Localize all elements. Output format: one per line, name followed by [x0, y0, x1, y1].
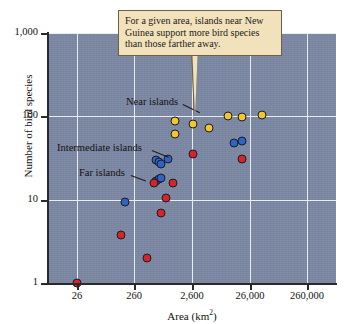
callout-tail	[192, 45, 198, 117]
data-point-near-6	[257, 110, 266, 119]
data-point-far-3	[149, 178, 158, 187]
data-point-far-1	[116, 230, 125, 239]
y-axis-line	[47, 32, 49, 284]
gridline-y-10	[48, 200, 336, 201]
data-point-near-1	[170, 129, 179, 138]
data-point-far-5	[161, 193, 170, 202]
data-point-near-4	[224, 111, 233, 120]
x-tick-label-26000: 26,000	[236, 291, 265, 302]
y-tick-mark-100	[41, 116, 48, 118]
y-tick-mark-1000	[41, 33, 48, 35]
y-tick-mark-1	[41, 283, 48, 285]
gridline-x-260000	[307, 33, 308, 283]
data-point-far-2	[143, 253, 152, 262]
x-axis-title: Area (km2)	[167, 308, 216, 322]
data-point-near-2	[189, 119, 198, 128]
gridline-x-26000	[250, 33, 251, 283]
data-point-inter-0	[121, 198, 130, 207]
x-axis-title-base: Area (km	[167, 310, 209, 322]
x-tick-label-26: 26	[72, 291, 83, 302]
series-label-intermediate-islands: Intermediate islands	[57, 143, 142, 154]
data-point-near-3	[205, 124, 214, 133]
data-point-near-5	[237, 113, 246, 122]
gridline-x-26	[77, 33, 78, 283]
y-tick-label-wrap: 1,000	[0, 27, 38, 39]
data-point-near-0	[170, 117, 179, 126]
callout-box: For a given area, islands near New Guine…	[118, 10, 282, 56]
data-point-far-8	[237, 154, 246, 163]
callout-text: For a given area, islands near New Guine…	[125, 15, 264, 49]
data-point-inter-9	[237, 137, 246, 146]
y-tick-mark-10	[41, 200, 48, 202]
series-label-far-islands: Far islands	[79, 168, 125, 179]
series-label-near-islands: Near islands	[126, 97, 178, 108]
data-point-far-7	[189, 150, 198, 159]
gridline-x-260	[134, 33, 135, 283]
chart-figure: 1101001,000 262602,60026,000260,000 Numb…	[0, 0, 344, 324]
x-axis-title-close: )	[213, 310, 217, 322]
data-point-far-6	[168, 178, 177, 187]
data-point-inter-7	[157, 174, 166, 183]
x-tick-label-2600: 2,600	[180, 291, 204, 302]
x-tick-label-260: 260	[126, 291, 142, 302]
y-tick-label-1: 1	[33, 277, 38, 288]
y-axis-title: Number of bird species	[22, 46, 34, 206]
data-point-far-4	[157, 208, 166, 217]
y-tick-label-1000: 1,000	[14, 27, 38, 38]
x-tick-label-260000: 260,000	[290, 291, 324, 302]
y-tick-label-wrap: 1	[0, 277, 38, 289]
